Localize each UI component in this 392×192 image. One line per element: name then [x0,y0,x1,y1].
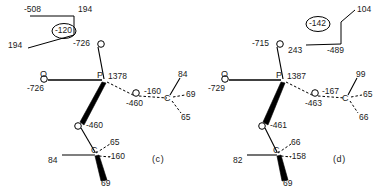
panel-label-c: (c) [152,155,164,164]
p-center-c-symbol: P [97,71,103,80]
c-lower-c-h3: 69 [101,179,110,188]
o-top-d-circle [277,41,284,48]
o-mid-c-value: -460 [126,99,143,108]
o-lower-d-value: -461 [270,121,287,130]
c-lower-d-value: -158 [289,152,306,161]
c-right-d-h2: 65 [363,90,372,99]
o-mid-c-circle [133,90,140,97]
o-lower-c-circle [75,123,82,130]
c-right-d-symbol: C [342,94,349,103]
o-left-c-value: -726 [27,84,44,93]
c-lower-d-h1: 66 [291,138,300,147]
o-mid-d-circle [312,90,319,97]
inset-d-circled-value: -142 [309,19,326,28]
c-right-c-symbol: C [164,94,171,103]
c-lower-c-h2: 84 [48,156,57,165]
o-left-d-symbol: O [221,70,228,79]
figure-canvas: -508 194 194 -120 -726 O -726 P 1378 -46… [0,0,392,192]
c-right-c-h2: 69 [186,90,195,99]
o-lower-c-value: -460 [86,121,103,130]
c-lower-d-symbol: C [273,146,280,155]
c-right-d-h1: 99 [356,70,365,79]
o-top-c-value: -726 [73,39,90,48]
c-lower-d-h2: 82 [233,156,242,165]
c-right-c-value: -160 [144,87,161,96]
p-center-d-symbol: P [276,71,282,80]
c-right-c-h1: 84 [178,70,187,79]
panel-label-d: (d) [333,155,346,164]
c-lower-d-h3: 69 [283,179,292,188]
p-center-d-value: 1387 [287,72,306,81]
o-lower-d-circle [259,123,266,130]
inset-c-value-right-top: 194 [78,5,92,14]
c-lower-c-value: -160 [108,152,125,161]
c-lower-c-symbol: C [91,146,98,155]
p-center-c-value: 1378 [108,72,127,81]
o-left-d-value: -729 [208,84,225,93]
c-right-d-h3: 66 [359,113,368,122]
c-right-d-value: -167 [322,87,339,96]
c-lower-c-h1: 65 [110,138,119,147]
inset-d-value-right-bottom: -489 [327,46,344,55]
inset-c-value-left-top: -508 [24,5,41,14]
c-right-c-h3: 65 [181,113,190,122]
o-top-d-value: -715 [252,39,269,48]
atom-circles-c [41,41,140,130]
inset-c-value-left-bottom: 194 [8,41,22,50]
inset-d-value-right-top: 104 [357,5,371,14]
o-left-c-symbol: O [40,70,47,79]
o-top-c-circle [98,41,105,48]
inset-c-circled-value: -120 [55,26,72,35]
inset-d-value-left-bottom: 243 [288,46,302,55]
o-mid-d-value: -463 [305,99,322,108]
